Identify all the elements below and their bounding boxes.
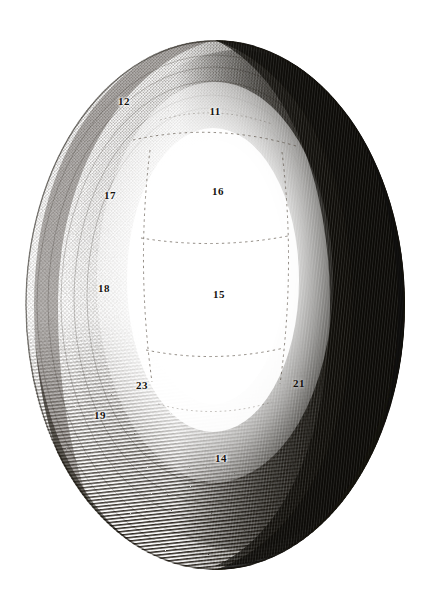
engraving-plate: 12111716181523211914 [0, 0, 443, 608]
specimen-figure [0, 0, 443, 608]
central-highlight [97, 82, 333, 482]
